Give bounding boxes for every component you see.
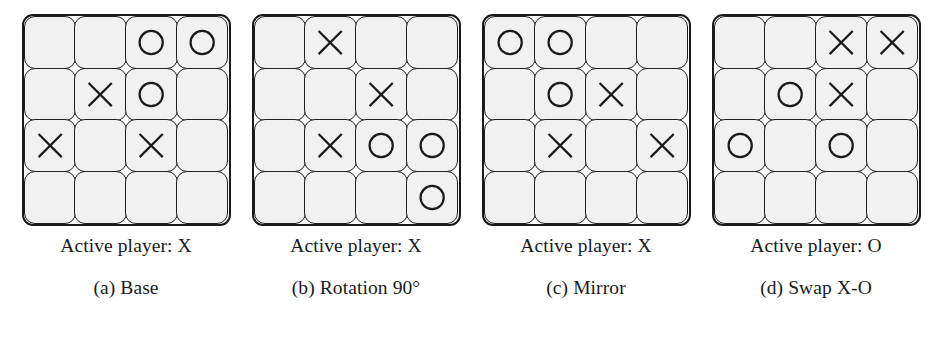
x-mark-icon xyxy=(867,17,917,68)
board-cell-r2c3[interactable] xyxy=(355,68,407,121)
board-cell-r2c3[interactable] xyxy=(815,68,867,121)
board-cell-r4c3[interactable] xyxy=(125,171,177,224)
board-panel-base: Active player: X(a) Base xyxy=(18,14,234,300)
board-cell-r1c4[interactable] xyxy=(176,16,228,69)
board-rotation-90 xyxy=(252,14,461,226)
o-mark-icon xyxy=(407,120,457,171)
x-mark-icon xyxy=(305,17,355,68)
o-mark-icon xyxy=(126,17,176,68)
board-cell-r3c1[interactable] xyxy=(714,119,766,172)
active-player-label: Active player: X xyxy=(60,235,192,257)
board-cell-r1c3[interactable] xyxy=(125,16,177,69)
board-cell-r2c3[interactable] xyxy=(585,68,637,121)
board-cell-r3c1[interactable] xyxy=(254,119,306,172)
board-cell-r4c1[interactable] xyxy=(484,171,536,224)
x-mark-icon xyxy=(535,120,585,171)
board-cell-r2c1[interactable] xyxy=(24,68,76,121)
board-cell-r1c2[interactable] xyxy=(304,16,356,69)
o-mark-icon xyxy=(126,69,176,120)
board-cell-r1c3[interactable] xyxy=(815,16,867,69)
board-grid xyxy=(485,17,688,223)
board-mirror xyxy=(482,14,691,226)
o-mark-icon xyxy=(485,17,535,68)
x-mark-icon xyxy=(75,69,125,120)
board-cell-r1c4[interactable] xyxy=(866,16,918,69)
subfigure-caption: (c) Mirror xyxy=(546,277,626,299)
o-mark-icon xyxy=(816,120,866,171)
board-cell-r4c2[interactable] xyxy=(534,171,586,224)
x-mark-icon xyxy=(126,120,176,171)
board-cell-r1c4[interactable] xyxy=(406,16,458,69)
board-cell-r1c2[interactable] xyxy=(764,16,816,69)
board-cell-r4c1[interactable] xyxy=(24,171,76,224)
board-panel-rotation-90: Active player: X(b) Rotation 90° xyxy=(248,14,464,300)
board-cell-r4c3[interactable] xyxy=(355,171,407,224)
board-cell-r2c2[interactable] xyxy=(534,68,586,121)
board-cell-r4c1[interactable] xyxy=(254,171,306,224)
board-cell-r3c2[interactable] xyxy=(764,119,816,172)
board-cell-r2c2[interactable] xyxy=(304,68,356,121)
board-cell-r4c1[interactable] xyxy=(714,171,766,224)
board-cell-r3c4[interactable] xyxy=(866,119,918,172)
board-cell-r2c4[interactable] xyxy=(866,68,918,121)
board-cell-r4c4[interactable] xyxy=(406,171,458,224)
x-mark-icon xyxy=(586,69,636,120)
board-base xyxy=(22,14,231,226)
board-cell-r1c1[interactable] xyxy=(714,16,766,69)
board-cell-r4c2[interactable] xyxy=(764,171,816,224)
board-cell-r4c3[interactable] xyxy=(585,171,637,224)
board-cell-r3c2[interactable] xyxy=(534,119,586,172)
board-cell-r1c2[interactable] xyxy=(74,16,126,69)
board-cell-r3c4[interactable] xyxy=(176,119,228,172)
o-mark-icon xyxy=(535,17,585,68)
board-cell-r1c3[interactable] xyxy=(355,16,407,69)
board-cell-r4c3[interactable] xyxy=(815,171,867,224)
o-mark-icon xyxy=(535,69,585,120)
board-cell-r1c4[interactable] xyxy=(636,16,688,69)
board-cell-r2c1[interactable] xyxy=(484,68,536,121)
active-player-label: Active player: X xyxy=(290,235,422,257)
board-cell-r1c2[interactable] xyxy=(534,16,586,69)
board-cell-r3c3[interactable] xyxy=(815,119,867,172)
board-cell-r2c2[interactable] xyxy=(764,68,816,121)
board-cell-r2c4[interactable] xyxy=(636,68,688,121)
x-mark-icon xyxy=(637,120,687,171)
board-cell-r1c1[interactable] xyxy=(484,16,536,69)
board-panel-swap-x-o: Active player: O(d) Swap X-O xyxy=(708,14,924,300)
board-grid xyxy=(25,17,228,223)
o-mark-icon xyxy=(407,172,457,223)
board-cell-r3c2[interactable] xyxy=(74,119,126,172)
board-cell-r2c3[interactable] xyxy=(125,68,177,121)
x-mark-icon xyxy=(816,17,866,68)
subfigure-caption: (d) Swap X-O xyxy=(760,277,872,299)
board-cell-r3c4[interactable] xyxy=(406,119,458,172)
board-cell-r2c4[interactable] xyxy=(176,68,228,121)
board-cell-r1c1[interactable] xyxy=(254,16,306,69)
board-cell-r1c3[interactable] xyxy=(585,16,637,69)
board-cell-r4c4[interactable] xyxy=(636,171,688,224)
board-cell-r4c2[interactable] xyxy=(304,171,356,224)
x-mark-icon xyxy=(305,120,355,171)
x-mark-icon xyxy=(816,69,866,120)
tictactoe-variants-figure: Active player: X(a) BaseActive player: X… xyxy=(0,0,942,300)
board-cell-r3c2[interactable] xyxy=(304,119,356,172)
board-cell-r3c1[interactable] xyxy=(484,119,536,172)
board-cell-r2c4[interactable] xyxy=(406,68,458,121)
board-cell-r4c2[interactable] xyxy=(74,171,126,224)
board-grid xyxy=(255,17,458,223)
board-cell-r2c1[interactable] xyxy=(714,68,766,121)
board-cell-r3c3[interactable] xyxy=(355,119,407,172)
active-player-label: Active player: O xyxy=(750,235,882,257)
board-cell-r3c1[interactable] xyxy=(24,119,76,172)
board-cell-r3c3[interactable] xyxy=(585,119,637,172)
board-swap-x-o xyxy=(712,14,921,226)
board-cell-r2c2[interactable] xyxy=(74,68,126,121)
board-cell-r3c3[interactable] xyxy=(125,119,177,172)
x-mark-icon xyxy=(25,120,75,171)
subfigure-caption: (a) Base xyxy=(93,277,158,299)
board-cell-r2c1[interactable] xyxy=(254,68,306,121)
board-cell-r4c4[interactable] xyxy=(176,171,228,224)
board-cell-r4c4[interactable] xyxy=(866,171,918,224)
board-cell-r3c4[interactable] xyxy=(636,119,688,172)
board-cell-r1c1[interactable] xyxy=(24,16,76,69)
